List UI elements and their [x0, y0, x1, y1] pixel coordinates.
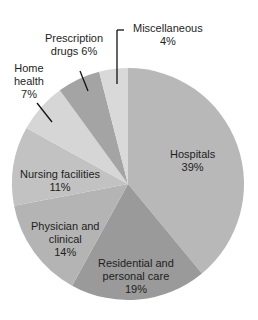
label-nursing-facilities: Nursing facilities 11%	[20, 168, 100, 194]
label-home-health: Home health 7%	[14, 62, 44, 101]
label-hospitals: Hospitals 39%	[170, 148, 215, 174]
label-miscellaneous: Miscellaneous 4%	[133, 22, 203, 48]
label-physician-clinical: Physician and clinical 14%	[31, 220, 100, 259]
label-prescription-drugs: Prescription drugs 6%	[45, 32, 103, 58]
label-residential-personal-care: Residential and personal care 19%	[98, 257, 174, 296]
